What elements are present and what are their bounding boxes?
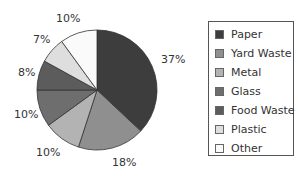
legend-swatch [215, 49, 224, 58]
legend-swatch [215, 68, 224, 77]
legend-swatch [215, 87, 224, 96]
legend: Paper Yard Waste Metal Glass Food Waste … [208, 21, 294, 156]
slice-label: 37% [161, 53, 185, 66]
slice-label: 10% [14, 108, 38, 121]
legend-item-glass: Glass [215, 84, 261, 98]
slice-label: 8% [18, 66, 35, 79]
slice-label: 10% [56, 12, 80, 25]
legend-item-yard-waste: Yard Waste [215, 46, 291, 60]
slice-label: 7% [33, 33, 50, 46]
legend-item-metal: Metal [215, 65, 261, 79]
legend-item-food-waste: Food Waste [215, 103, 295, 117]
legend-item-paper: Paper [215, 27, 262, 41]
legend-swatch [215, 106, 224, 115]
legend-swatch [215, 144, 224, 153]
legend-swatch [215, 30, 224, 39]
slice-label: 10% [36, 146, 60, 159]
legend-swatch [215, 125, 224, 134]
legend-item-plastic: Plastic [215, 122, 267, 136]
legend-item-other: Other [215, 141, 262, 155]
slice-label: 18% [112, 156, 136, 169]
